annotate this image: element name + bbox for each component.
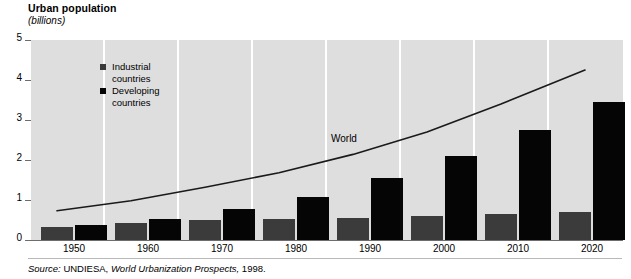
x-tick-label-1950: 1950 [63, 243, 85, 254]
y-tick-mark [25, 200, 31, 201]
y-axis: 5 4 3 2 1 0 [0, 0, 31, 279]
legend-swatch-icon [100, 64, 106, 70]
bar-industrial-2010 [485, 214, 517, 240]
source-prefix: Source: [28, 263, 61, 274]
legend-label: countries [112, 73, 160, 85]
y-tick-label: 5 [16, 33, 22, 43]
source-divider [28, 258, 622, 259]
source-agency: UNDIESA, [63, 263, 108, 274]
bar-industrial-1980 [263, 219, 295, 240]
legend-swatch-icon [100, 88, 106, 94]
x-tick-label-1960: 1960 [137, 243, 159, 254]
bar-industrial-2000 [411, 216, 443, 240]
y-tick-mark [25, 40, 31, 41]
bar-industrial-1970 [189, 220, 221, 240]
x-axis-line [31, 240, 623, 241]
legend-item-industrial-countries: Industrial countries [100, 61, 160, 84]
legend-label: Developing [112, 85, 160, 97]
bar-industrial-1990 [337, 218, 369, 240]
source-year: 1998. [242, 263, 266, 274]
y-tick-mark [25, 240, 31, 241]
x-tick-label-2020: 2020 [581, 243, 603, 254]
bar-developing-2000 [445, 156, 477, 240]
legend-label: Industrial [112, 61, 160, 73]
y-tick-label: 3 [16, 113, 22, 123]
bar-industrial-1950 [41, 227, 73, 240]
y-tick-mark [25, 80, 31, 81]
bar-developing-1980 [297, 197, 329, 240]
legend-label: countries [112, 97, 160, 109]
source-note: Source: UNDIESA, World Urbanization Pros… [28, 263, 266, 274]
bar-developing-2010 [519, 130, 551, 240]
bar-developing-1970 [223, 209, 255, 240]
bar-developing-1960 [149, 219, 181, 240]
bar-developing-1990 [371, 178, 403, 240]
y-tick-label: 4 [16, 73, 22, 83]
y-tick-label: 0 [16, 233, 22, 243]
title-block: Urban population (billions) [28, 3, 117, 27]
chart-subtitle: (billions) [28, 16, 117, 27]
world-line-label: World [331, 133, 357, 144]
bar-industrial-2020 [559, 212, 591, 240]
chart-legend: Industrial countries Developing countrie… [100, 61, 160, 109]
x-tick-label-1970: 1970 [211, 243, 233, 254]
page-title: Urban population [28, 3, 117, 14]
source-publication: World Urbanization Prospects, [111, 263, 239, 274]
x-tick-label-1980: 1980 [285, 243, 307, 254]
y-tick-mark [25, 160, 31, 161]
x-tick-label-1990: 1990 [359, 243, 381, 254]
urban-population-chart-figure: Urban population (billions) [0, 0, 631, 279]
bar-developing-2020 [593, 102, 625, 240]
x-tick-label-2000: 2000 [433, 243, 455, 254]
panel-separator [177, 40, 179, 240]
y-tick-label: 1 [16, 193, 22, 203]
y-tick-label: 2 [16, 153, 22, 163]
legend-item-developing-countries: Developing countries [100, 85, 160, 108]
x-tick-label-2010: 2010 [507, 243, 529, 254]
y-tick-mark [25, 120, 31, 121]
bar-industrial-1960 [115, 223, 147, 240]
bar-developing-1950 [75, 225, 107, 240]
